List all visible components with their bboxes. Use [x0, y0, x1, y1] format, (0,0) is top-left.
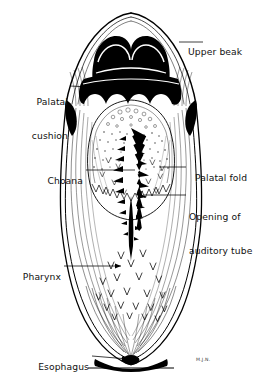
- label-palatal-cushion-line-1: Palatal: [0, 96, 68, 107]
- pharynx-papillae: [96, 250, 167, 322]
- label-pharynx-line-1: Pharynx: [23, 271, 61, 282]
- label-auditory-tube: Opening of auditory tube: [189, 189, 263, 267]
- label-choana: Choana: [0, 164, 83, 186]
- label-auditory-tube-line-1: Opening of: [189, 211, 263, 222]
- label-palatal-cushion: Palatal cushion: [0, 74, 68, 152]
- artist-signature: M.J.N.: [196, 357, 210, 362]
- esophagus-folds: [86, 286, 176, 356]
- label-upper-beak: Upper beak: [182, 35, 260, 57]
- label-esophagus: Esophagus: [0, 350, 89, 372]
- palate-stipple-dots: [93, 131, 169, 170]
- auditory-tube-opening: [129, 196, 134, 262]
- palate-shading: [92, 136, 170, 192]
- label-esophagus-line-1: Esophagus: [38, 361, 89, 372]
- beak-corner-wedges: [65, 100, 197, 136]
- palate-stipple-circles: [107, 108, 157, 129]
- label-palatal-cushion-line-2: cushion: [0, 130, 68, 141]
- label-pharynx: Pharynx: [0, 260, 61, 282]
- label-palatal-fold: Palatal fold: [189, 161, 263, 183]
- leader-pharynx-arrowhead: [115, 263, 121, 268]
- label-upper-beak-line-1: Upper beak: [188, 46, 242, 57]
- label-palatal-fold-line-1: Palatal fold: [195, 172, 247, 183]
- label-choana-line-1: Choana: [47, 175, 83, 186]
- beak-black-band: [79, 36, 181, 105]
- label-auditory-tube-line-2: auditory tube: [189, 245, 263, 256]
